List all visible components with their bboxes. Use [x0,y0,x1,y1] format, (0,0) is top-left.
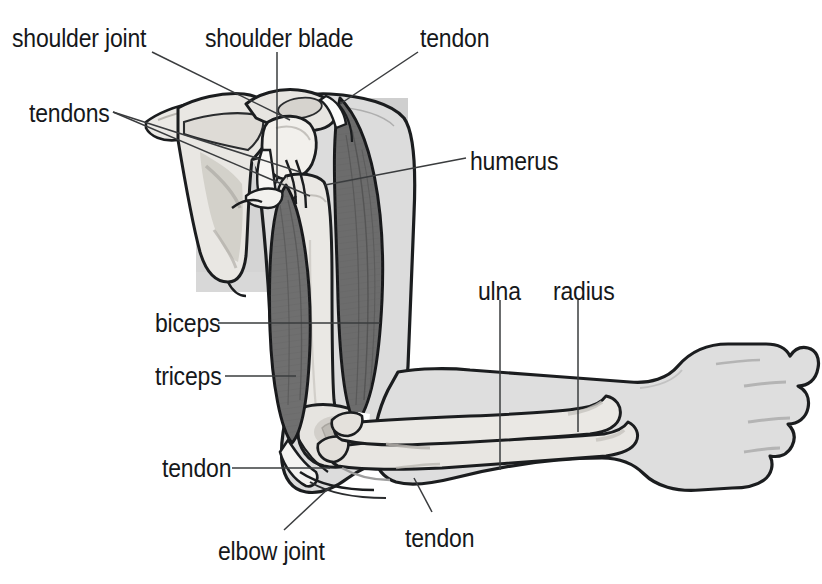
label-elbow-joint: elbow joint [218,538,325,564]
label-radius: radius [553,278,615,304]
diagram-page: shoulder jointshoulder bladetendontendon… [0,0,822,584]
label-humerus: humerus [470,148,558,174]
label-shoulder-joint: shoulder joint [12,25,146,51]
label-tendons: tendons [29,100,110,126]
leader-tendon-top [340,52,418,104]
label-tendon-top: tendon [420,25,489,51]
label-tendon-bottom: tendon [405,525,474,551]
label-tendon-left: tendon [162,455,231,481]
label-ulna: ulna [478,278,521,304]
label-triceps: triceps [155,363,221,389]
arm-anatomy-illustration [0,0,822,584]
label-shoulder-blade: shoulder blade [205,25,353,51]
label-biceps: biceps [155,310,220,336]
